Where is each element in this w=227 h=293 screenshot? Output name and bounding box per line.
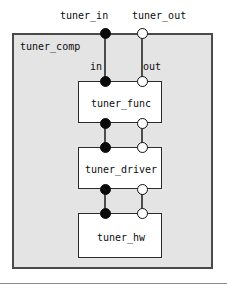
port-tuner-hw-top-out[interactable] [137, 208, 148, 219]
part-label-tuner-hw: tuner_hw [79, 232, 163, 243]
wire-tuner-in-to-func-in [104, 33, 106, 81]
part-box-tuner-func[interactable]: tuner_func [78, 81, 162, 123]
port-tuner-driver-bottom-out[interactable] [137, 184, 148, 195]
port-label-out: out [143, 62, 161, 72]
port-tuner-driver-top-out[interactable] [137, 142, 148, 153]
external-port-label-tuner-out: tuner_out [132, 11, 186, 21]
external-port-label-tuner-in: tuner_in [60, 11, 108, 21]
figure-separator-rule [0, 283, 227, 284]
part-box-tuner-hw[interactable]: tuner_hw [78, 213, 162, 258]
port-tuner-in[interactable] [100, 28, 111, 39]
port-tuner-hw-top-in[interactable] [100, 208, 111, 219]
port-tuner-func-top-out[interactable] [137, 76, 148, 87]
diagram-canvas: tuner_in tuner_out tuner_comp in out tun… [0, 0, 227, 293]
port-tuner-func-top-in[interactable] [100, 76, 111, 87]
port-tuner-func-bottom-in[interactable] [100, 118, 111, 129]
wire-tuner-out-to-func-out [141, 33, 143, 81]
component-label-tuner-comp: tuner_comp [20, 42, 80, 52]
part-label-tuner-func: tuner_func [79, 98, 163, 109]
part-box-tuner-driver[interactable]: tuner_driver [78, 147, 162, 189]
port-tuner-func-bottom-out[interactable] [137, 118, 148, 129]
port-tuner-driver-top-in[interactable] [100, 142, 111, 153]
port-tuner-out[interactable] [137, 28, 148, 39]
port-tuner-driver-bottom-in[interactable] [100, 184, 111, 195]
part-label-tuner-driver: tuner_driver [79, 164, 163, 175]
port-label-in: in [90, 62, 102, 72]
